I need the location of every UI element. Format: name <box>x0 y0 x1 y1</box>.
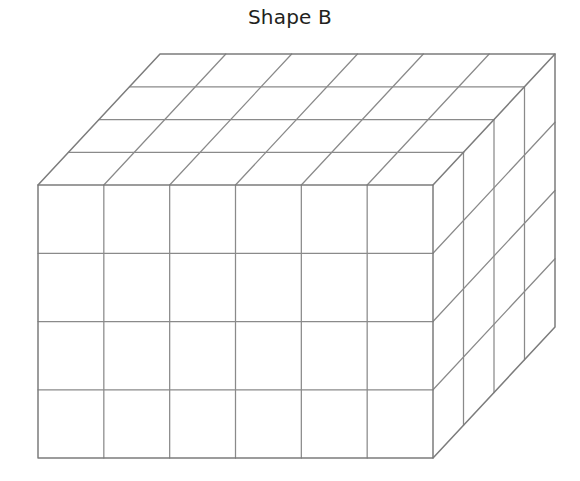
prism-faces-fill <box>38 54 555 458</box>
shape-b-prism-figure <box>0 0 580 481</box>
figure-canvas: Shape B <box>0 0 580 481</box>
